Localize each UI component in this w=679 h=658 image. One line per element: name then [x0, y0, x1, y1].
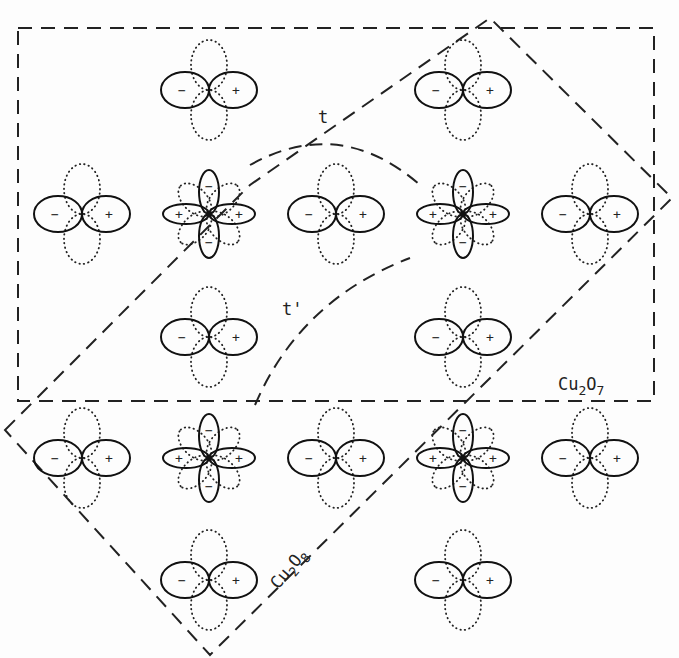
py-lobe-bottom [445, 90, 481, 140]
minus-sign: − [432, 83, 440, 98]
minus-sign: − [205, 235, 213, 250]
py-lobe-bottom [318, 214, 354, 264]
minus-sign: − [559, 207, 567, 222]
plus-sign: + [105, 451, 113, 466]
svg-text:Cu2O8: Cu2O8 [266, 544, 314, 595]
plus-sign: + [489, 451, 497, 466]
py-lobe-top [191, 40, 227, 90]
minus-sign: − [178, 573, 186, 588]
minus-sign: − [459, 179, 467, 194]
hopping-path-t-prime [255, 258, 410, 405]
orbital-diagram: t t' Cu2O7 Cu2O8 −+−+−+−+−+−+−+−+−+−+−+−… [0, 0, 679, 658]
hopping-label-t-prime: t' [282, 299, 302, 319]
minus-sign: − [432, 573, 440, 588]
minus-sign: − [432, 330, 440, 345]
plus-sign: + [613, 207, 621, 222]
minus-sign: − [205, 179, 213, 194]
minus-sign: − [459, 235, 467, 250]
oxygen-p-orbital: −+ [34, 164, 130, 264]
minus-sign: − [559, 451, 567, 466]
cu2o7-label-o: O [586, 374, 596, 394]
plus-sign: + [486, 330, 494, 345]
py-lobe-top [445, 530, 481, 580]
hopping-label-t: t [318, 107, 328, 127]
py-lobe-top [572, 164, 608, 214]
py-lobe-bottom [318, 458, 354, 508]
cu2o7-label-sub1: 2 [578, 383, 586, 398]
copper-center-dot [206, 211, 212, 217]
minus-sign: − [205, 479, 213, 494]
py-lobe-bottom [64, 458, 100, 508]
cu2o8-label: Cu2O8 [266, 544, 314, 595]
cu2o7-label-sub2: 7 [597, 383, 605, 398]
py-lobe-bottom [64, 214, 100, 264]
plus-sign: + [232, 330, 240, 345]
unit-cells [5, 18, 672, 655]
oxygen-p-orbital: −+ [415, 530, 511, 630]
oxygen-p-orbital: −+ [415, 287, 511, 387]
plus-sign: + [175, 207, 183, 222]
plus-sign: + [235, 451, 243, 466]
minus-sign: − [51, 207, 59, 222]
oxygen-p-orbital: −+ [415, 40, 511, 140]
minus-sign: − [178, 330, 186, 345]
cu2o8-cell-boundary [5, 18, 672, 655]
oxygen-p-orbital: −+ [542, 408, 638, 508]
plus-sign: + [359, 207, 367, 222]
plus-sign: + [489, 207, 497, 222]
py-lobe-top [64, 408, 100, 458]
plus-sign: + [486, 573, 494, 588]
plus-sign: + [105, 207, 113, 222]
plus-sign: + [359, 451, 367, 466]
plus-sign: + [235, 207, 243, 222]
copper-center-dot [460, 455, 466, 461]
copper-d-orbital: −−++ [163, 170, 255, 258]
oxygen-p-orbital: −+ [288, 408, 384, 508]
orbitals-layer: −+−+−+−+−+−+−+−+−+−+−+−+−−++−−++−−++−−++ [34, 40, 638, 630]
minus-sign: − [459, 423, 467, 438]
plus-sign: + [486, 83, 494, 98]
py-lobe-bottom [191, 90, 227, 140]
cu2o7-label-cu: Cu [558, 374, 578, 394]
py-lobe-bottom [191, 337, 227, 387]
py-lobe-top [64, 164, 100, 214]
copper-center-dot [460, 211, 466, 217]
py-lobe-top [445, 40, 481, 90]
py-lobe-top [318, 408, 354, 458]
copper-d-orbital: −−++ [417, 170, 509, 258]
py-lobe-bottom [572, 458, 608, 508]
plus-sign: + [232, 573, 240, 588]
plus-sign: + [175, 451, 183, 466]
oxygen-p-orbital: −+ [542, 164, 638, 264]
py-lobe-bottom [572, 214, 608, 264]
oxygen-p-orbital: −+ [161, 40, 257, 140]
plus-sign: + [429, 451, 437, 466]
py-lobe-top [191, 530, 227, 580]
minus-sign: − [305, 207, 313, 222]
cu2o7-label: Cu2O7 [558, 374, 604, 398]
py-lobe-bottom [191, 580, 227, 630]
copper-d-orbital: −−++ [417, 414, 509, 502]
minus-sign: − [305, 451, 313, 466]
plus-sign: + [232, 83, 240, 98]
py-lobe-top [445, 287, 481, 337]
minus-sign: − [459, 479, 467, 494]
copper-d-orbital: −−++ [163, 414, 255, 502]
oxygen-p-orbital: −+ [161, 530, 257, 630]
oxygen-p-orbital: −+ [288, 164, 384, 264]
py-lobe-top [572, 408, 608, 458]
py-lobe-bottom [445, 580, 481, 630]
copper-center-dot [206, 455, 212, 461]
oxygen-p-orbital: −+ [34, 408, 130, 508]
minus-sign: − [205, 423, 213, 438]
py-lobe-top [191, 287, 227, 337]
py-lobe-top [318, 164, 354, 214]
plus-sign: + [613, 451, 621, 466]
svg-text:Cu2O7: Cu2O7 [558, 374, 604, 398]
py-lobe-bottom [445, 337, 481, 387]
oxygen-p-orbital: −+ [161, 287, 257, 387]
minus-sign: − [178, 83, 186, 98]
minus-sign: − [51, 451, 59, 466]
plus-sign: + [429, 207, 437, 222]
